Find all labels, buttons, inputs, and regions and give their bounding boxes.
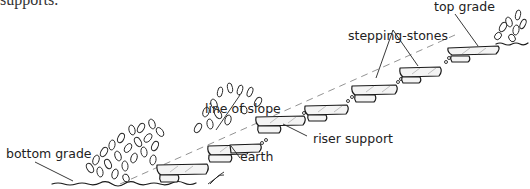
step-7-top <box>448 46 499 62</box>
label-line-of-slope: line of slope <box>205 101 281 116</box>
label-bottom-grade: bottom grade <box>6 146 92 161</box>
line-of-slope-dashed <box>120 35 455 184</box>
top-ground <box>496 43 528 45</box>
step-6 <box>400 57 451 84</box>
label-riser-support: riser support <box>313 131 393 146</box>
shrub-top-icon <box>493 10 527 43</box>
shrub-bottom-icon <box>85 118 165 183</box>
step-4 <box>305 96 354 122</box>
label-earth: earth <box>240 149 273 164</box>
bottom-ground <box>52 175 224 186</box>
label-stepping-stones: stepping-stones <box>348 28 448 43</box>
step-5 <box>352 78 403 103</box>
step-1 <box>157 164 224 184</box>
stepping-stones-diagram: top grade stepping-stones line of slope … <box>0 0 530 189</box>
label-top-grade: top grade <box>434 0 495 14</box>
